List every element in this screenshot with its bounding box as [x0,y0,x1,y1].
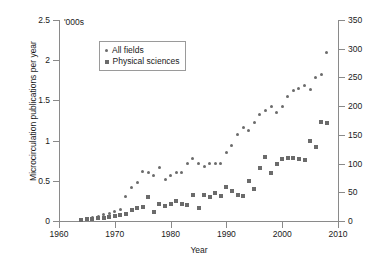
data-point [263,155,267,159]
data-point [169,202,173,206]
data-point [130,208,134,212]
data-point [230,144,233,147]
data-point [319,120,323,124]
data-point [314,76,317,79]
microcirculation-publications-chart: Microcirculation publications per year Y… [0,0,378,264]
data-point [292,89,295,92]
data-point [180,171,183,174]
data-point [141,170,144,173]
data-point [191,157,194,160]
data-point [275,162,279,166]
data-point [135,206,139,210]
data-point [219,162,222,165]
data-point [197,162,200,165]
data-point [308,139,312,143]
data-point [325,121,329,125]
data-point [314,145,318,149]
data-point [124,212,128,216]
data-point [113,214,117,218]
data-point [280,157,284,161]
data-point [224,185,228,189]
data-point [113,210,116,213]
data-point [214,162,217,165]
data-point [157,202,161,206]
data-point [297,87,300,90]
data-point [325,51,328,54]
data-point [163,204,167,208]
data-point [202,193,206,197]
data-point [186,162,189,165]
data-point [152,210,156,214]
data-point [191,193,195,197]
data-point [281,105,284,108]
data-point [258,113,261,116]
data-point [291,156,295,160]
data-point [203,165,206,168]
data-point [253,121,256,124]
data-point [270,105,273,108]
data-point [303,84,306,87]
data-point [147,171,150,174]
data-point [85,217,89,221]
data-point [275,111,278,114]
data-point [269,171,273,175]
data-point [241,194,245,198]
data-point [303,158,307,162]
data-point [146,195,150,199]
data-point [247,129,250,132]
data-point [236,133,239,136]
data-point [225,151,228,154]
data-point [152,174,155,177]
data-point [219,194,223,198]
data-point [175,171,178,174]
data-point [130,186,133,189]
data-point [79,218,83,222]
data-point [320,73,323,76]
data-point [164,178,167,181]
data-point [297,157,301,161]
data-point [180,202,184,206]
data-point [169,174,172,177]
data-point [119,208,122,211]
data-point [158,166,161,169]
data-point [90,217,94,221]
plot-area [0,0,378,264]
data-point [185,203,189,207]
data-point [174,199,178,203]
data-point [252,187,256,191]
data-point [136,181,139,184]
data-point [236,193,240,197]
data-point [208,162,211,165]
data-point [118,213,122,217]
data-point [286,95,289,98]
data-point [208,195,212,199]
data-point [247,179,251,183]
data-point [141,205,145,209]
data-point [242,126,245,129]
data-point [309,88,312,91]
data-point [213,191,217,195]
data-point [264,109,267,112]
data-point [197,206,201,210]
data-point [96,216,100,220]
data-point [124,195,127,198]
data-point [230,189,234,193]
data-point [258,166,262,170]
data-point [107,215,111,219]
data-point [286,156,290,160]
data-point [102,216,106,220]
